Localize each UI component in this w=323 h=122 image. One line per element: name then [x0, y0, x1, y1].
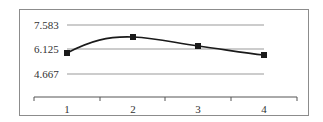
x-tick-label: 4 — [261, 103, 267, 115]
series-line — [67, 37, 264, 55]
x-tick-label: 1 — [64, 103, 70, 115]
y-tick-label: 4.667 — [34, 68, 59, 80]
line-chart: 7.583 6.125 4.667 1 2 3 4 — [0, 0, 323, 122]
data-point-marker — [195, 43, 201, 49]
x-tick-label: 2 — [130, 103, 136, 115]
y-tick-label: 6.125 — [34, 43, 59, 55]
data-point-marker — [130, 34, 136, 40]
data-point-marker — [261, 52, 267, 58]
y-tick-label: 7.583 — [34, 19, 59, 31]
data-point-marker — [64, 50, 70, 56]
x-tick-label: 3 — [195, 103, 201, 115]
